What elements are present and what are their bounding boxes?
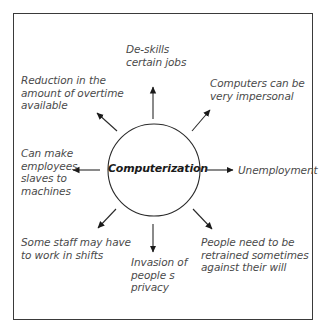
effect-label-lower-right: People need to be retrained sometimes ag… <box>201 236 309 274</box>
cropped-caption <box>60 325 260 332</box>
effect-label-bottom: Invasion of people s privacy <box>131 256 187 294</box>
arrow-upper-left <box>97 113 117 131</box>
effect-label-right: Unemployment <box>238 164 318 177</box>
center-label: Computerization <box>108 162 200 176</box>
effect-label-upper-right: Computers can be very impersonal <box>210 77 305 102</box>
arrow-lower-right <box>193 209 212 229</box>
effect-label-upper-left: Reduction in the amount of overtime avai… <box>21 74 124 112</box>
effect-label-left: Can make employees slaves to machines <box>21 147 77 197</box>
effect-label-top: De-skills certain jobs <box>126 43 186 68</box>
arrow-upper-right <box>192 110 210 131</box>
arrow-lower-left <box>98 209 116 228</box>
effect-label-lower-left: Some staff may have to work in shifts <box>21 236 131 261</box>
